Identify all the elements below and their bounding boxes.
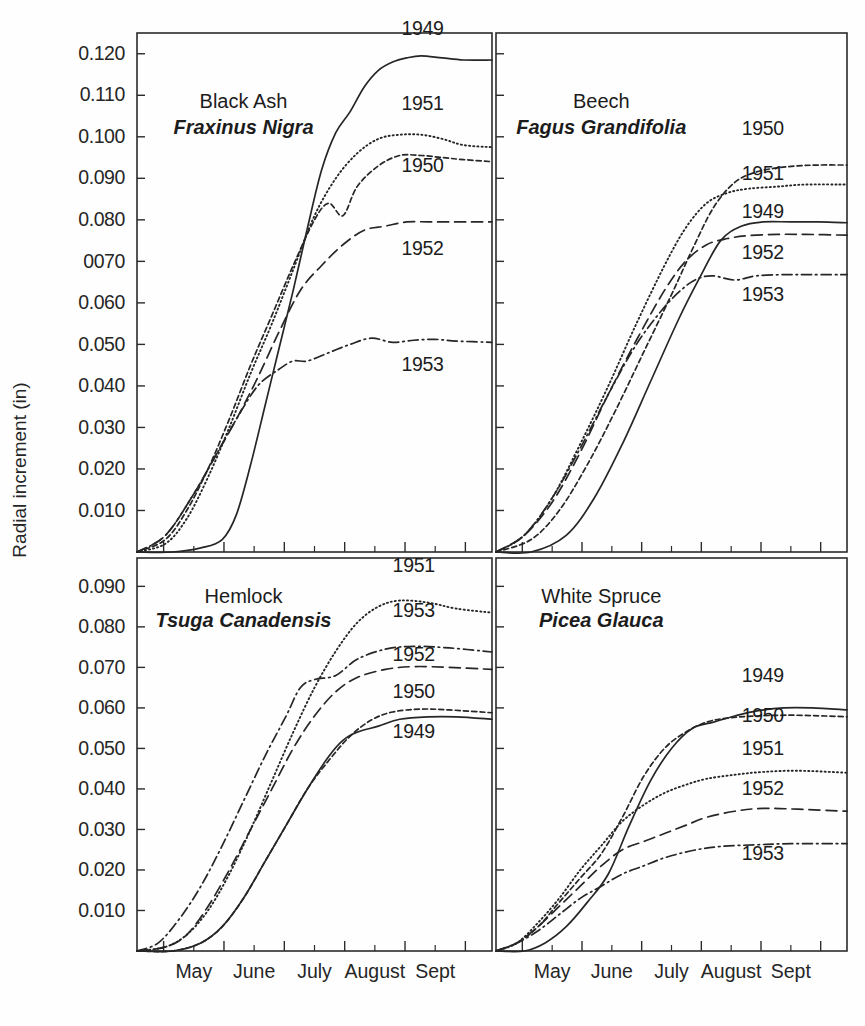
y-axis-ticks bbox=[496, 586, 504, 910]
figure-root: 0.0100.0200.0300.0400.0500.06000700.0800… bbox=[0, 0, 865, 1026]
y-tick-label: 0.050 bbox=[78, 333, 125, 355]
y-tick-label: 0.020 bbox=[78, 457, 125, 479]
series-label-1949: 1949 bbox=[401, 17, 443, 39]
y-tick-label: 0.010 bbox=[78, 499, 125, 521]
series-label-1949: 1949 bbox=[742, 664, 784, 686]
y-tick-label: 0070 bbox=[83, 250, 125, 272]
x-tick-label: May bbox=[534, 960, 571, 982]
x-tick-label: Sept bbox=[415, 960, 456, 982]
series-label-1950: 1950 bbox=[393, 680, 436, 702]
series-label-1949: 1949 bbox=[742, 200, 784, 222]
y-tick-label: 0.040 bbox=[78, 374, 125, 396]
series-label-1951: 1951 bbox=[393, 554, 435, 576]
panel-hemlock: 0.0100.0200.0300.0400.0500.0600.0700.080… bbox=[78, 554, 492, 982]
series-line-1950 bbox=[137, 709, 492, 952]
x-tick-label: August bbox=[701, 960, 762, 982]
series-line-1952 bbox=[137, 222, 492, 552]
y-tick-label: 0.120 bbox=[78, 42, 125, 64]
series-line-1951 bbox=[496, 184, 847, 552]
x-axis-ticks bbox=[164, 542, 466, 552]
series-label-1953: 1953 bbox=[742, 283, 784, 305]
series-label-1950: 1950 bbox=[401, 154, 444, 176]
series-label-1950: 1950 bbox=[742, 704, 785, 726]
series-label-1953: 1953 bbox=[401, 353, 443, 375]
y-tick-label: 0.100 bbox=[78, 125, 125, 147]
y-tick-label: 0.020 bbox=[78, 858, 125, 880]
y-axis-ticks bbox=[137, 586, 145, 910]
series-label-1951: 1951 bbox=[742, 737, 784, 759]
x-tick-label: July bbox=[654, 960, 689, 982]
series-line-1950 bbox=[496, 715, 847, 951]
y-tick-label: 0.050 bbox=[78, 737, 125, 759]
panel-scientific-name: Picea Glauca bbox=[539, 609, 664, 631]
x-axis-ticks bbox=[522, 941, 820, 951]
series-label-1949: 1949 bbox=[393, 720, 435, 742]
series-label-1953: 1953 bbox=[742, 842, 784, 864]
x-axis-ticks bbox=[522, 542, 820, 552]
y-axis-ticks bbox=[137, 54, 145, 511]
series-label-1952: 1952 bbox=[401, 237, 443, 259]
series-label-1953: 1953 bbox=[393, 599, 435, 621]
series-line-1953 bbox=[496, 844, 847, 951]
x-tick-label: June bbox=[591, 960, 633, 982]
y-axis-ticks bbox=[496, 54, 504, 511]
x-tick-label: Sept bbox=[771, 960, 812, 982]
x-tick-label: May bbox=[175, 960, 212, 982]
y-tick-label: 0.080 bbox=[78, 208, 125, 230]
series-line-1949 bbox=[137, 717, 492, 952]
y-tick-label: 0.030 bbox=[78, 818, 125, 840]
series-label-1952: 1952 bbox=[742, 777, 784, 799]
radial-increment-multi-panel-chart: 0.0100.0200.0300.0400.0500.06000700.0800… bbox=[0, 0, 865, 1026]
series-label-1952: 1952 bbox=[393, 643, 435, 665]
x-tick-label: August bbox=[344, 960, 405, 982]
panel-frame bbox=[496, 33, 847, 552]
y-tick-label: 0.090 bbox=[78, 575, 125, 597]
panel-common-name: Hemlock bbox=[205, 585, 284, 607]
y-tick-label: 0.040 bbox=[78, 777, 125, 799]
panel-beech: BeechFagus Grandifolia195019511949195219… bbox=[496, 33, 847, 553]
y-tick-label: 0.030 bbox=[78, 416, 125, 438]
series-line-1953 bbox=[137, 646, 492, 951]
x-axis-ticks bbox=[164, 941, 466, 951]
panel-scientific-name: Tsuga Canadensis bbox=[156, 609, 332, 631]
series-label-1952: 1952 bbox=[742, 241, 784, 263]
panel-common-name: Black Ash bbox=[200, 90, 288, 112]
series-label-1950: 1950 bbox=[742, 117, 785, 139]
series-line-1952 bbox=[496, 808, 847, 951]
y-tick-label: 0.010 bbox=[78, 899, 125, 921]
y-tick-label: 0.110 bbox=[80, 83, 126, 105]
y-tick-label: 0.090 bbox=[78, 166, 125, 188]
panel-common-name: White Spruce bbox=[541, 585, 661, 607]
series-line-1953 bbox=[496, 275, 847, 552]
panel-scientific-name: Fagus Grandifolia bbox=[516, 116, 686, 138]
y-tick-label: 0.080 bbox=[78, 615, 125, 637]
panel-white-spruce: MayJuneJulyAugustSeptWhite SprucePicea G… bbox=[496, 558, 847, 982]
y-tick-label: 0.060 bbox=[78, 291, 125, 313]
y-axis-title: Radial increment (in) bbox=[9, 382, 30, 557]
series-label-1951: 1951 bbox=[742, 162, 784, 184]
panel-common-name: Beech bbox=[573, 90, 630, 112]
series-label-1951: 1951 bbox=[401, 92, 443, 114]
x-tick-label: July bbox=[297, 960, 332, 982]
panel-black-ash: 0.0100.0200.0300.0400.0500.06000700.0800… bbox=[78, 17, 492, 552]
panel-scientific-name: Fraxinus Nigra bbox=[173, 116, 313, 138]
y-tick-label: 0.060 bbox=[78, 696, 125, 718]
y-tick-label: 0.070 bbox=[78, 656, 125, 678]
series-line-1951 bbox=[137, 600, 492, 951]
x-tick-label: June bbox=[233, 960, 275, 982]
series-line-1950 bbox=[496, 165, 847, 552]
